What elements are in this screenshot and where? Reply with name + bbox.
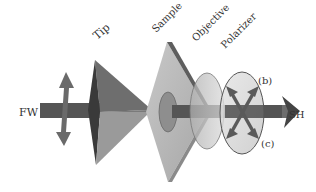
- tip-label: Tip: [91, 21, 113, 42]
- polarizer-label: Polarizer: [219, 10, 259, 50]
- sample-label: Sample: [150, 0, 185, 34]
- label-c: (c): [261, 138, 275, 149]
- sh-beam: [225, 105, 293, 118]
- shg-microscopy-diagram: Tip Sample Objective Polarizer FW SH (b)…: [0, 0, 316, 192]
- objective-lens: [190, 73, 224, 149]
- tip-pyramid: [88, 60, 156, 165]
- label-b: (b): [258, 75, 272, 86]
- sh-label: SH: [289, 109, 305, 120]
- fw-label: FW: [19, 106, 39, 119]
